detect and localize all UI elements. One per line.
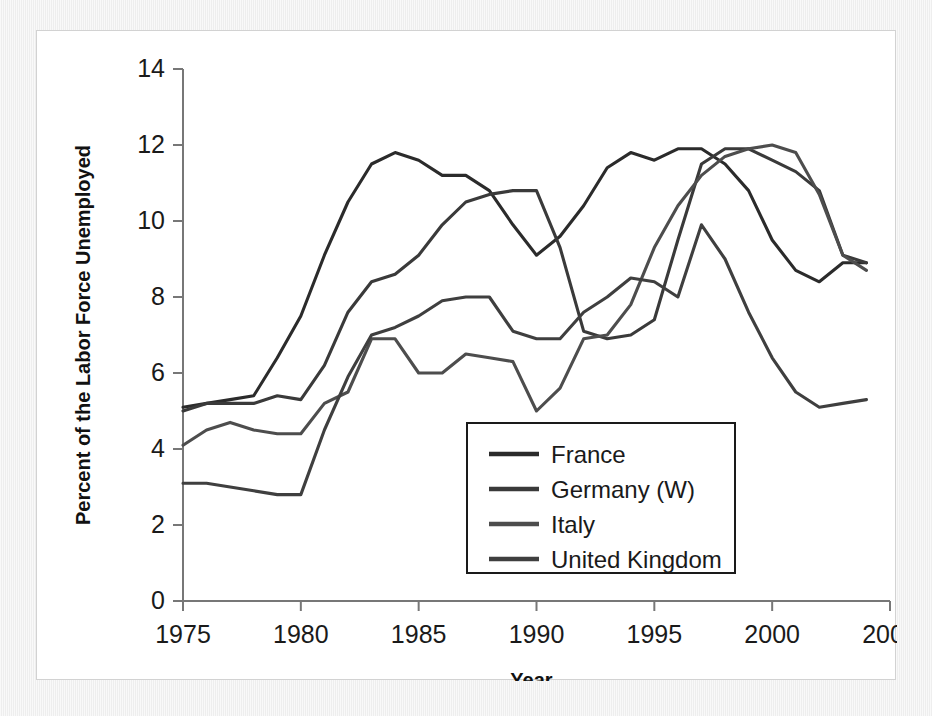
y-tick-label: 2	[151, 510, 165, 538]
x-tick-label: 1985	[391, 620, 447, 648]
x-tick-label: 1975	[155, 620, 211, 648]
x-axis-ticks	[183, 601, 890, 611]
series-line-germany-w	[183, 149, 866, 411]
y-tick-label: 6	[151, 358, 165, 386]
legend-label: Germany (W)	[551, 476, 695, 503]
legend-label: France	[551, 441, 626, 468]
legend: FranceGermany (W)ItalyUnited Kingdom	[467, 423, 735, 573]
y-tick-label: 4	[151, 434, 165, 462]
y-axis-tick-labels: 02468101214	[137, 54, 165, 614]
y-tick-label: 14	[137, 54, 165, 82]
line-chart: 02468101214 1975198019851990199520002005…	[37, 31, 897, 681]
y-tick-label: 0	[151, 586, 165, 614]
series-line-france	[183, 149, 866, 407]
page-background: 02468101214 1975198019851990199520002005…	[0, 0, 932, 716]
x-tick-label: 2005	[862, 620, 897, 648]
y-tick-label: 8	[151, 282, 165, 310]
x-tick-label: 1995	[627, 620, 683, 648]
x-axis-title: Year	[510, 669, 552, 681]
y-axis-title: Percent of the Labor Force Unemployed	[72, 145, 94, 525]
x-axis-tick-labels: 1975198019851990199520002005	[155, 620, 897, 648]
y-tick-label: 10	[137, 206, 165, 234]
legend-label: United Kingdom	[551, 546, 722, 573]
legend-label: Italy	[551, 511, 595, 538]
y-tick-label: 12	[137, 130, 165, 158]
figure-frame: 02468101214 1975198019851990199520002005…	[36, 30, 896, 680]
x-tick-label: 2000	[744, 620, 800, 648]
x-tick-label: 1990	[509, 620, 565, 648]
y-axis-ticks	[173, 69, 183, 601]
x-tick-label: 1980	[273, 620, 329, 648]
